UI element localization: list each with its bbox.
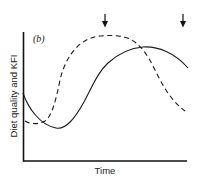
panel-label: (b) bbox=[33, 33, 45, 45]
arrow-down-icon bbox=[180, 14, 186, 28]
y-axis-label: Diet quality and KFI bbox=[8, 55, 19, 138]
arrow-down-icon bbox=[102, 14, 108, 28]
x-axis-label: Time bbox=[95, 165, 116, 176]
dashed-curve bbox=[25, 35, 185, 123]
solid-curve bbox=[23, 47, 188, 128]
chart: (b) Time Diet quality and KFI bbox=[0, 0, 197, 179]
